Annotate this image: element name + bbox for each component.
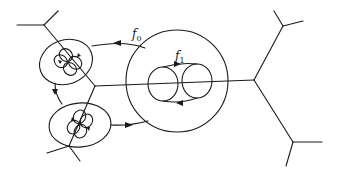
arrow-icon bbox=[58, 60, 62, 64]
arrow-icon bbox=[176, 100, 183, 106]
edge-bottom-left-branch-down bbox=[69, 146, 80, 161]
arrow-icon bbox=[125, 122, 133, 128]
edge-right-bottom-branch-down bbox=[286, 142, 293, 166]
f0-arc-left bbox=[55, 83, 62, 104]
lower-left-lobes bbox=[65, 108, 95, 141]
upper-left-region bbox=[33, 32, 99, 92]
edge-right-top-branch-up bbox=[274, 11, 283, 26]
edge-upper-left-branch-up bbox=[44, 11, 58, 25]
large-circle bbox=[126, 30, 228, 132]
diagram-canvas: f0 f1 bbox=[0, 0, 338, 174]
edge-bottom-left-branch-left bbox=[47, 146, 69, 153]
label-f0: f0 bbox=[131, 27, 142, 43]
edge-right-up bbox=[254, 26, 283, 80]
lower-left-region bbox=[47, 100, 113, 149]
arrow-icon bbox=[113, 40, 121, 46]
label-f1: f1 bbox=[174, 49, 185, 65]
edge-upper-left-trunk bbox=[44, 25, 95, 86]
upper-left-lobes bbox=[52, 46, 85, 78]
large-circle-region bbox=[126, 30, 228, 132]
graph-edges bbox=[17, 11, 322, 166]
edge-right-top-branch-right bbox=[283, 21, 303, 26]
arrow-icon bbox=[77, 53, 81, 57]
edge-right-down bbox=[254, 80, 293, 142]
edge-center-right bbox=[95, 80, 254, 86]
inner-ellipse-right bbox=[182, 64, 212, 98]
